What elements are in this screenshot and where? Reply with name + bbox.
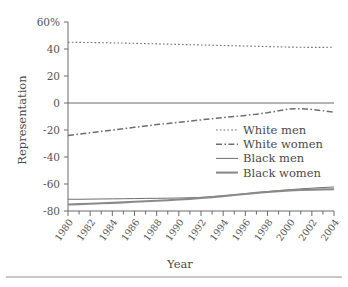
- y-tick-label: 40: [47, 43, 60, 55]
- legend-label-black-men: Black men: [243, 151, 305, 165]
- x-tick-label: 1998: [252, 217, 275, 243]
- y-axis-title: Representation: [15, 75, 29, 165]
- y-tick-label: -20: [43, 124, 60, 136]
- x-tick-label: 1984: [97, 217, 120, 243]
- x-tick-label: 1992: [185, 217, 208, 243]
- chart-figure: Representation Year 60%40200-20-40-60-80…: [0, 0, 348, 287]
- x-axis-ticks: [68, 211, 334, 216]
- y-tick-label: 60%: [37, 16, 60, 28]
- x-tick-label: 2002: [296, 217, 319, 243]
- x-tick-label: 2004: [318, 217, 341, 243]
- x-tick-label: 1980: [52, 217, 75, 243]
- x-tick-label: 1986: [119, 217, 142, 243]
- legend-label-black-women: Black women: [243, 166, 322, 180]
- legend-label-white-men: White men: [243, 123, 307, 137]
- x-axis-tick-labels: 1980198219841986198819901992199419961998…: [52, 217, 341, 243]
- y-axis-ticks: [64, 22, 68, 211]
- y-axis-title-text: Representation: [15, 75, 29, 165]
- y-tick-label: -80: [43, 205, 60, 217]
- x-tick-label: 1996: [230, 217, 253, 243]
- chart-legend: White menWhite womenBlack menBlack women: [216, 123, 323, 180]
- representation-line-chart: Representation Year 60%40200-20-40-60-80…: [0, 0, 348, 287]
- x-tick-label: 1988: [141, 217, 164, 243]
- x-tick-label: 2000: [274, 217, 297, 243]
- x-tick-label: 1982: [74, 217, 97, 243]
- y-axis-tick-labels: 60%40200-20-40-60-80: [37, 16, 60, 217]
- x-tick-label: 1990: [163, 217, 186, 243]
- y-tick-label: 20: [47, 70, 60, 82]
- x-tick-label: 1994: [207, 217, 230, 243]
- series-line-white-men: [68, 42, 334, 47]
- x-axis-title: Year: [166, 257, 193, 271]
- y-tick-label: 0: [53, 97, 60, 109]
- y-tick-label: -40: [43, 151, 60, 163]
- x-axis-title-text: Year: [166, 257, 193, 271]
- legend-label-white-women: White women: [243, 137, 323, 151]
- axis-lines: [68, 22, 334, 211]
- y-tick-label: -60: [43, 178, 60, 190]
